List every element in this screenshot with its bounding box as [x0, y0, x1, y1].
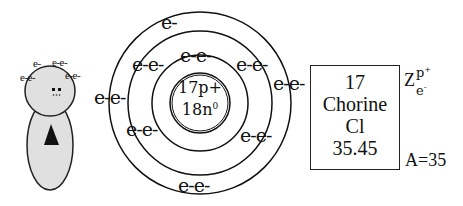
electron-label-mid-bottom-left: e-e- [126, 120, 157, 139]
head-electron-label: e-e- [20, 72, 35, 83]
electron-label-top: e- [161, 13, 177, 32]
figure-mouth-dot [56, 94, 58, 96]
electron-label-outer-right: e-e- [273, 74, 304, 93]
mass-number-label: A=35 [405, 150, 446, 171]
figure-eye-right [58, 88, 61, 91]
nucleus-protons: 17p+ [171, 78, 229, 97]
electron-label-mid-top-right: e-e- [236, 55, 267, 74]
z-electron: e- [416, 80, 431, 98]
element-symbol: Cl [311, 115, 399, 137]
head-electron-label: e-e- [52, 57, 67, 68]
electron-label-outer-left: e-e- [94, 88, 125, 107]
nucleus-neutrons: 18n0 [171, 97, 229, 119]
z-label: Z [404, 70, 415, 91]
nucleus: 17p+ 18n0 [171, 78, 229, 119]
head-electron-label: e-e- [65, 70, 80, 81]
electron-label-mid-bottom-right: e-e- [240, 126, 271, 145]
head-electron-label: e- [33, 58, 41, 69]
atomic-number: 17 [311, 71, 399, 93]
electron-label-bottom: e-e- [178, 176, 209, 195]
electron-label-mid-top-left: e-e- [132, 55, 163, 74]
element-name: Chorine [311, 93, 399, 115]
figure-mouth-dot [53, 94, 55, 96]
z-definition: p+ e- [416, 62, 431, 98]
element-card: 17 Chorine Cl 35.45 [310, 65, 400, 170]
atomic-mass: 35.45 [311, 137, 399, 159]
figure-eye-left [52, 88, 55, 91]
electron-label-inner-top: e-e- [180, 46, 211, 65]
figure-mouth-dot [59, 94, 61, 96]
z-proton: p+ [416, 62, 431, 80]
